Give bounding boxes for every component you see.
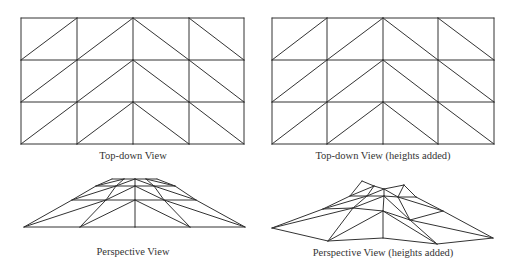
mesh-edge xyxy=(135,200,190,227)
mesh-edge xyxy=(272,228,328,241)
mesh-edge xyxy=(384,185,404,189)
mesh-edge xyxy=(77,18,133,60)
perspective-heights-mesh xyxy=(272,181,493,244)
mesh-edge xyxy=(327,102,383,144)
mesh-edge xyxy=(362,181,374,186)
mesh-edge xyxy=(21,18,77,60)
mesh-edge xyxy=(189,102,244,144)
mesh-edge xyxy=(438,102,494,144)
mesh-edge xyxy=(353,196,384,208)
mesh-edge xyxy=(353,208,383,211)
mesh-edge xyxy=(272,208,353,228)
mesh-edge xyxy=(189,18,244,60)
mesh-edge xyxy=(327,18,383,60)
mesh-edge xyxy=(272,102,327,144)
caption-topdown-view: Top-down View xyxy=(99,150,167,161)
mesh-edge xyxy=(383,60,438,102)
mesh-edge xyxy=(328,238,383,241)
mesh-edge xyxy=(133,60,189,102)
mesh-edge xyxy=(374,186,384,189)
mesh-edge xyxy=(133,102,189,144)
mesh-edge xyxy=(80,200,135,227)
mesh-edge xyxy=(77,102,133,144)
topdown-heights-mesh xyxy=(272,18,494,144)
topdown-mesh xyxy=(21,18,244,144)
mesh-edge xyxy=(404,185,416,197)
mesh-edge xyxy=(21,60,77,102)
mesh-edge xyxy=(189,60,244,102)
caption-perspective-view: Perspective View xyxy=(97,246,170,257)
mesh-edge xyxy=(410,220,437,244)
mesh-edge xyxy=(438,60,494,102)
mesh-edge xyxy=(327,60,383,102)
mesh-edge xyxy=(398,185,404,197)
mesh-edge xyxy=(77,60,133,102)
mesh-edge xyxy=(164,200,245,227)
mesh-edge xyxy=(383,18,438,60)
mesh-edge xyxy=(437,238,493,244)
mesh-edge xyxy=(133,18,189,60)
perspective-mesh xyxy=(24,179,245,227)
mesh-edge xyxy=(272,18,327,60)
terrain-mesh-figure xyxy=(0,0,514,269)
mesh-edge xyxy=(21,102,77,144)
mesh-edge xyxy=(272,60,327,102)
mesh-edge xyxy=(175,186,196,200)
caption-topdown-heights-view: Top-down View (heights added) xyxy=(315,150,450,161)
mesh-edge xyxy=(383,196,384,211)
mesh-edge xyxy=(438,18,494,60)
mesh-edge xyxy=(443,211,493,238)
mesh-edge xyxy=(383,102,438,144)
mesh-edge xyxy=(272,209,323,228)
mesh-edge xyxy=(328,211,383,241)
caption-perspective-heights-view: Perspective View (heights added) xyxy=(313,247,454,258)
mesh-edge xyxy=(410,211,443,220)
